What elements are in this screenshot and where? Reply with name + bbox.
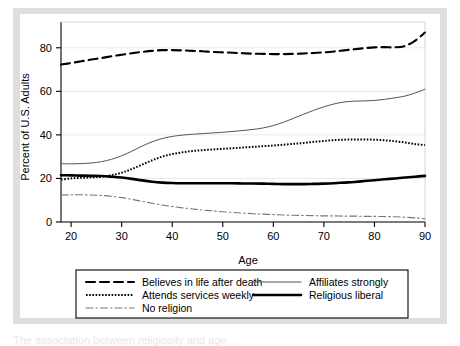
x-tick-label: 70 (318, 230, 330, 242)
x-tick-label: 20 (65, 230, 77, 242)
line-chart: 020406080 2030405060708090 Percent of U.… (0, 0, 460, 346)
figure-caption: The association between religiosity and … (13, 334, 313, 346)
data-series-group (61, 33, 425, 219)
figure-container: 020406080 2030405060708090 Percent of U.… (0, 0, 460, 346)
series-line (61, 33, 425, 65)
legend-label: No religion (142, 302, 192, 314)
gridlines (61, 48, 425, 222)
x-tick-marks (71, 222, 425, 227)
series-line (61, 195, 425, 219)
y-tick-labels: 020406080 (40, 42, 52, 228)
y-tick-label: 40 (40, 129, 52, 141)
y-tick-label: 0 (46, 216, 52, 228)
legend-label: Affiliates strongly (309, 276, 389, 288)
legend-label: Believes in life after death (142, 276, 262, 288)
legend-label: Religious liberal (309, 289, 383, 301)
y-tick-label: 80 (40, 42, 52, 54)
x-tick-label: 90 (419, 230, 431, 242)
x-tick-label: 60 (267, 230, 279, 242)
x-tick-label: 50 (217, 230, 229, 242)
y-axis-title: Percent of U.S. Adults (19, 73, 31, 181)
series-line (61, 175, 425, 184)
axis-lines (61, 22, 425, 222)
y-tick-label: 60 (40, 85, 52, 97)
chart-legend: Believes in life after deathAttends serv… (76, 270, 408, 318)
x-tick-label: 80 (368, 230, 380, 242)
y-tick-marks (56, 48, 61, 222)
series-line (61, 139, 425, 179)
x-axis-title: Age (238, 254, 258, 266)
legend-label: Attends services weekly (142, 289, 255, 301)
x-tick-label: 30 (116, 230, 128, 242)
x-tick-label: 40 (166, 230, 178, 242)
y-tick-label: 20 (40, 172, 52, 184)
series-line (61, 89, 425, 164)
x-tick-labels: 2030405060708090 (65, 230, 431, 242)
